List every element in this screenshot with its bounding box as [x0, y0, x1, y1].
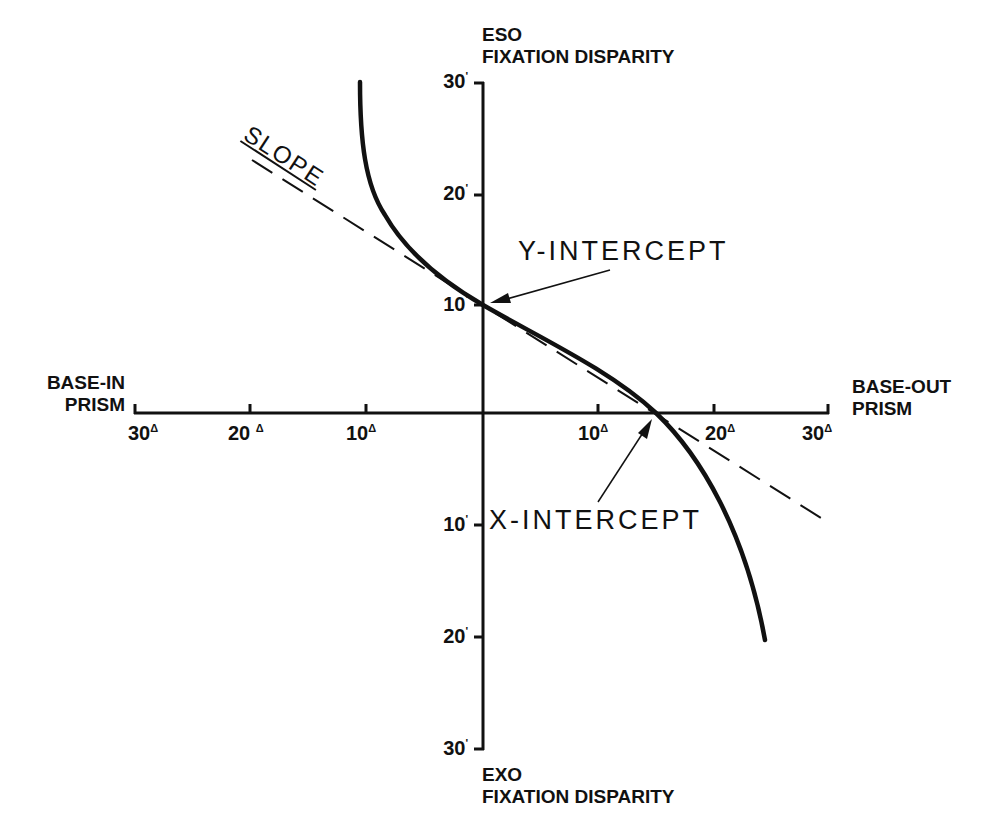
y-tick-label: 10' — [418, 513, 468, 536]
y-axis-bottom-label-line2: FIXATION DISPARITY — [482, 786, 674, 808]
y-tick-label: 30' — [418, 70, 468, 93]
x-tick-label: 30Δ — [802, 422, 832, 445]
x-tick-label: 10Δ — [346, 422, 376, 445]
slope-dashed-line — [252, 160, 829, 523]
x-axis-left-label-line1: BASE-IN — [25, 372, 125, 394]
x-axis-right-label-line2: PRISM — [852, 398, 951, 420]
y-intercept-arrowhead — [490, 293, 511, 303]
y-tick-label: 20' — [418, 182, 468, 205]
y-axis-top-label-line1: ESO — [482, 24, 674, 46]
y-axis-bottom-label: EXO FIXATION DISPARITY — [482, 764, 674, 808]
y-axis-top-label-line2: FIXATION DISPARITY — [482, 46, 674, 68]
y-intercept-annotation: Y-INTERCEPT — [518, 236, 729, 267]
x-intercept-annotation: X-INTERCEPT — [489, 505, 702, 536]
fixation-disparity-curve — [360, 82, 765, 640]
y-tick-label: 10' — [418, 293, 468, 316]
x-axis-left-label-line2: PRISM — [25, 394, 125, 416]
x-axis-right-label-line1: BASE-OUT — [852, 376, 951, 398]
y-axis-top-label: ESO FIXATION DISPARITY — [482, 24, 674, 68]
x-tick-label: 10Δ — [578, 422, 608, 445]
x-tick-label: 20 Δ — [228, 422, 264, 445]
y-intercept-arrow-line — [496, 270, 610, 302]
y-tick-label: 20' — [418, 625, 468, 648]
chart-canvas — [0, 0, 1001, 829]
x-axis-right-label: BASE-OUT PRISM — [852, 376, 951, 420]
x-tick-label: 30Δ — [128, 422, 158, 445]
y-axis-bottom-label-line1: EXO — [482, 764, 674, 786]
y-tick-label: 30' — [418, 737, 468, 760]
x-tick-label: 20Δ — [705, 422, 735, 445]
x-axis-left-label: BASE-IN PRISM — [25, 372, 125, 416]
